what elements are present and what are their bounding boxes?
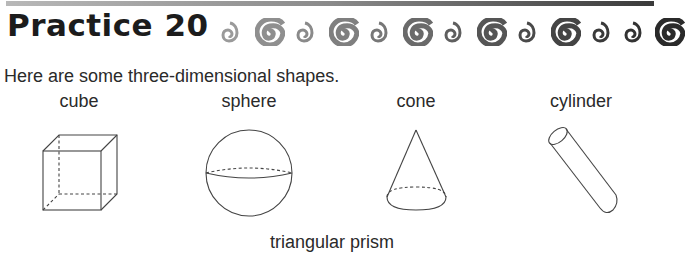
cylinder-diagram [0, 0, 664, 267]
